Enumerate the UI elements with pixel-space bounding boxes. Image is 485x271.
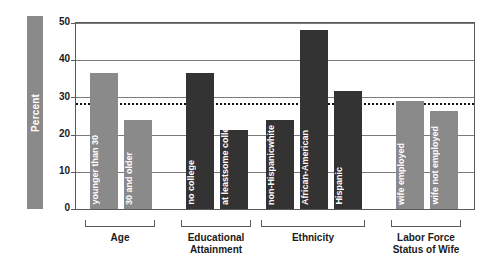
y-tick-20: 20 — [50, 129, 70, 139]
bar: at leastsome college — [220, 130, 248, 209]
group-bracket — [391, 220, 461, 227]
bar: no college — [186, 73, 214, 209]
bar-chart: Percent 50 40 30 20 10 0 younger than 30… — [0, 0, 485, 271]
y-tick-40: 40 — [50, 54, 70, 64]
y-tickmark-30 — [71, 97, 76, 98]
y-tickmark-40 — [71, 60, 76, 61]
bar-label: younger than 30 — [90, 135, 118, 205]
bar-label: non-Hispanicwhite — [266, 125, 294, 205]
y-tick-50: 50 — [50, 17, 70, 27]
y-tick-30: 30 — [50, 92, 70, 102]
bar: African-American — [300, 30, 328, 209]
bar-label: wife not employed — [430, 126, 458, 205]
y-tickmark-50 — [71, 23, 76, 24]
y-tickmark-20 — [71, 135, 76, 136]
bar: wife employed — [396, 101, 424, 209]
y-tick-0: 0 — [50, 203, 70, 213]
group-label-line: Attainment — [151, 244, 281, 256]
bar-label: at leastsome college — [220, 117, 248, 205]
y-tickmark-0 — [71, 209, 76, 210]
gridline-50 — [76, 23, 474, 24]
gridline-30 — [76, 97, 474, 98]
bar-label: no college — [186, 160, 214, 205]
bar-label: Hispanic — [334, 167, 362, 205]
bar: Hispanic — [334, 91, 362, 209]
bar: non-Hispanicwhite — [266, 120, 294, 209]
bar-label: African-American — [300, 130, 328, 205]
gridline-40 — [76, 60, 474, 61]
y-tick-10: 10 — [50, 166, 70, 176]
group-label-line: Labor Force — [361, 232, 485, 244]
group-bracket — [261, 220, 365, 227]
y-tickmark-10 — [71, 172, 76, 173]
bar: wife not employed — [430, 111, 458, 209]
group-label-line: Status of Wife — [361, 244, 485, 256]
bar-label: 30 and older — [124, 152, 152, 205]
bar: 30 and older — [124, 120, 152, 209]
bar-label: wife employed — [396, 143, 424, 205]
plot-area: younger than 3030 and olderno collegeat … — [75, 22, 475, 210]
y-axis-tick-labels: 50 40 30 20 10 0 — [48, 0, 70, 271]
group-bracket — [85, 220, 155, 227]
group-bracket — [181, 220, 251, 227]
group-label: Labor ForceStatus of Wife — [361, 232, 485, 256]
bar: younger than 30 — [90, 73, 118, 209]
y-axis-title: Percent — [27, 16, 43, 209]
